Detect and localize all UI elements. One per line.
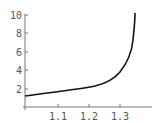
y-tick-label: 4 xyxy=(16,65,22,76)
x-tick-label: 1.1 xyxy=(49,111,67,122)
chart: 10 8 6 4 2 1.1 1.2 1.3 xyxy=(0,0,160,123)
data-curve xyxy=(25,13,135,96)
y-tick-label: 6 xyxy=(16,47,22,58)
x-tick-label: 1.3 xyxy=(111,111,129,122)
y-tick-label: 2 xyxy=(16,84,22,95)
x-tick-label: 1.2 xyxy=(80,111,98,122)
y-tick-labels: 10 8 6 4 2 xyxy=(10,10,22,95)
x-tick-labels: 1.1 1.2 1.3 xyxy=(49,111,129,122)
y-tick-label: 10 xyxy=(10,10,22,21)
y-tick-label: 8 xyxy=(16,28,22,39)
